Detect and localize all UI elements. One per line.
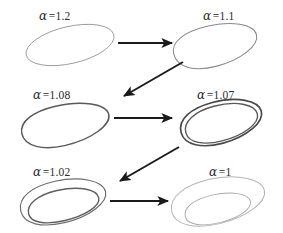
alpha-symbol: α [33, 88, 43, 102]
panel-label-alpha-1-08: α=1.08 [33, 88, 70, 102]
curve-alpha-1-08 [18, 95, 114, 154]
limit-cycle-outer [22, 17, 118, 73]
alpha-symbol: α [197, 88, 207, 102]
figure-canvas [0, 0, 283, 233]
limit-cycle-outer [169, 15, 261, 75]
bifurcation-figure: α=1.2 α=1.1 α=1.08 α=1.07 α=1.02 α=1 [0, 0, 283, 233]
alpha-symbol: α [39, 9, 49, 23]
alpha-value: 1.1 [220, 10, 235, 22]
alpha-equals: = [207, 89, 214, 101]
panel-label-alpha-1-1: α=1.1 [203, 9, 234, 23]
limit-cycle-inner [181, 96, 262, 149]
arrow-row1-to-row2 [124, 62, 183, 96]
alpha-value: 1.2 [56, 10, 71, 22]
alpha-equals: = [49, 10, 56, 22]
curve-alpha-1-02 [16, 171, 110, 232]
limit-cycle-outer [16, 171, 110, 232]
alpha-value: 1.08 [50, 89, 71, 101]
limit-cycle-outer [18, 95, 114, 154]
curve-alpha-1-2 [22, 17, 118, 73]
limit-cycle-inner [25, 182, 102, 228]
curve-alpha-1-1 [169, 15, 261, 75]
alpha-value: 1.02 [50, 166, 71, 178]
alpha-symbol: α [209, 165, 219, 179]
panel-label-alpha-1-2: α=1.2 [39, 9, 70, 23]
panel-label-alpha-1-07: α=1.07 [197, 88, 234, 102]
alpha-equals: = [219, 166, 226, 178]
panel-label-alpha-1: α=1 [209, 165, 231, 179]
arrow-row2-to-row3 [120, 147, 179, 181]
panel-label-alpha-1-02: α=1.02 [33, 165, 70, 179]
alpha-value: 1.07 [214, 89, 235, 101]
alpha-equals: = [43, 89, 50, 101]
limit-cycle-inner [182, 187, 254, 230]
alpha-symbol: α [33, 165, 43, 179]
alpha-symbol: α [203, 9, 213, 23]
alpha-equals: = [43, 166, 50, 178]
alpha-equals: = [213, 10, 220, 22]
alpha-value: 1 [226, 166, 232, 178]
